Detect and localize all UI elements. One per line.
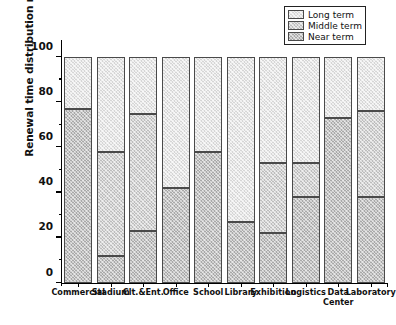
segment-middle-term[interactable] [97, 152, 125, 256]
legend-swatch-near-icon [288, 32, 304, 41]
y-tick-label-60: 60 [38, 130, 53, 142]
bar-logistics[interactable] [292, 57, 320, 283]
bar-laboratory[interactable] [357, 57, 385, 283]
y-tick-80 [56, 101, 62, 102]
bar-school[interactable] [194, 57, 222, 283]
segment-middle-term[interactable] [292, 163, 320, 197]
segment-near-term[interactable] [357, 197, 385, 283]
legend-item-near[interactable]: Near term [288, 31, 362, 42]
bar-exhibition[interactable] [259, 57, 287, 283]
legend-item-middle[interactable]: Middle term [288, 20, 362, 31]
y-tick-20 [56, 236, 62, 237]
bar-library[interactable] [227, 57, 255, 283]
segment-middle-term[interactable] [357, 111, 385, 197]
plot-area: 020406080100CommercialStadiumClt.&Ent.Of… [62, 57, 387, 283]
legend-swatch-middle-icon [288, 21, 304, 30]
bar-clt-ent[interactable] [129, 57, 157, 283]
segment-long-term[interactable] [227, 57, 255, 222]
legend-item-long[interactable]: Long term [288, 9, 362, 20]
segment-long-term[interactable] [194, 57, 222, 152]
segment-near-term[interactable] [129, 231, 157, 283]
segment-long-term[interactable] [292, 57, 320, 163]
segment-long-term[interactable] [97, 57, 125, 152]
x-axis-label-3: Office [163, 288, 189, 298]
segment-long-term[interactable] [64, 57, 92, 109]
y-tick-label-40: 40 [38, 175, 53, 187]
x-axis-label-7: Logistics [286, 288, 326, 298]
segment-long-term[interactable] [129, 57, 157, 114]
bar-data-center[interactable] [324, 57, 352, 283]
segment-near-term[interactable] [97, 256, 125, 283]
segment-long-term[interactable] [259, 57, 287, 163]
legend-label-middle: Middle term [308, 21, 362, 31]
y-axis-title: Renewal time distribution ratio (%) [23, 0, 35, 179]
segment-near-term[interactable] [292, 197, 320, 283]
y-tick-40 [56, 191, 62, 192]
segment-middle-term[interactable] [129, 114, 157, 232]
bar-stadium[interactable] [97, 57, 125, 283]
y-tick-label-80: 80 [38, 85, 53, 97]
x-axis-label-4: School [193, 288, 223, 298]
y-minor-tick-30 [59, 214, 63, 215]
segment-near-term[interactable] [64, 109, 92, 283]
x-axis-label-9: Laboratory [346, 288, 396, 298]
y-minor-tick-50 [59, 169, 63, 170]
legend-label-near: Near term [308, 32, 354, 42]
segment-near-term[interactable] [162, 188, 190, 283]
bar-commercial[interactable] [64, 57, 92, 283]
segment-near-term[interactable] [259, 233, 287, 283]
segment-long-term[interactable] [324, 57, 352, 118]
bar-office[interactable] [162, 57, 190, 283]
legend-swatch-long-icon [288, 10, 304, 19]
y-tick-label-0: 0 [46, 266, 53, 278]
y-tick-label-20: 20 [38, 220, 53, 232]
segment-near-term[interactable] [227, 222, 255, 283]
chart-legend: Long termMiddle termNear term [284, 6, 366, 45]
segment-near-term[interactable] [194, 152, 222, 283]
x-tick-end [387, 283, 388, 287]
x-axis-label-2: Clt.&Ent. [123, 288, 164, 298]
segment-middle-term[interactable] [259, 163, 287, 233]
y-minor-tick-90 [59, 78, 63, 79]
segment-long-term[interactable] [162, 57, 190, 188]
segment-near-term[interactable] [324, 118, 352, 283]
legend-label-long: Long term [308, 10, 354, 20]
y-tick-0 [56, 282, 62, 283]
segment-long-term[interactable] [357, 57, 385, 111]
y-minor-tick-10 [59, 259, 63, 260]
y-tick-60 [56, 146, 62, 147]
y-minor-tick-70 [59, 124, 63, 125]
y-tick-100 [56, 56, 62, 57]
y-tick-label-100: 100 [31, 40, 53, 52]
